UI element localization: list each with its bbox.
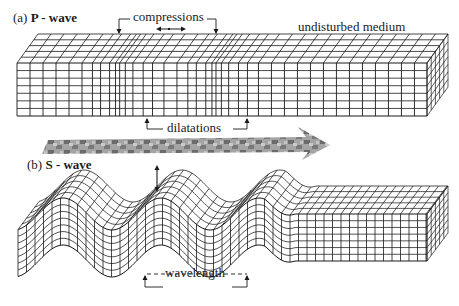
wavelength-label: wavelength bbox=[165, 266, 225, 279]
p-wave-label-prefix: (a) bbox=[13, 10, 27, 25]
p-wave-label: (a) P - wave bbox=[13, 11, 77, 24]
p-wave-label-title: P - wave bbox=[31, 10, 77, 25]
s-wave-label-title: S - wave bbox=[45, 157, 91, 172]
compressions-label: compressions bbox=[133, 10, 204, 23]
s-wave-block bbox=[18, 170, 448, 277]
s-wave-label: (b) S - wave bbox=[27, 158, 92, 171]
p-wave-block bbox=[17, 34, 448, 116]
undisturbed-medium-label: undisturbed medium bbox=[298, 20, 405, 33]
s-wave-label-prefix: (b) bbox=[27, 157, 42, 172]
p-wave-markers bbox=[117, 19, 250, 129]
dilatations-label: dilatations bbox=[167, 121, 221, 134]
seismic-wave-diagram bbox=[0, 0, 459, 306]
